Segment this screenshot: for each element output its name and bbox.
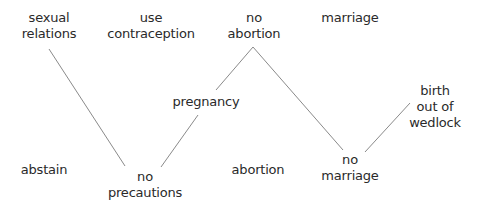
- node-abortion: abortion: [232, 162, 285, 178]
- node-text-line: no: [108, 169, 182, 185]
- node-text-line: birth: [409, 83, 461, 99]
- node-no-abortion: no abortion: [228, 10, 281, 42]
- node-sexual-relations: sexual relations: [22, 10, 77, 42]
- node-birth-out-of-wedlock: birth out of wedlock: [409, 83, 461, 131]
- node-text-line: precautions: [108, 185, 182, 201]
- node-text-line: abortion: [232, 162, 285, 178]
- node-pregnancy: pregnancy: [172, 94, 239, 110]
- edge-no-marriage-to-birth-out-of-wedlock: [365, 103, 410, 152]
- edge-sexual-relations-to-no-precautions: [49, 49, 125, 166]
- node-text-line: no: [321, 152, 378, 168]
- node-text-line: marriage: [321, 168, 378, 184]
- node-text-line: use: [107, 10, 194, 26]
- node-no-precautions: no precautions: [108, 169, 182, 201]
- node-text-line: marriage: [321, 10, 378, 26]
- edge-no-precautions-to-pregnancy: [161, 115, 198, 167]
- node-text-line: contraception: [107, 26, 194, 42]
- node-text-line: wedlock: [409, 115, 461, 131]
- edge-pregnancy-to-no-abortion: [216, 47, 253, 90]
- node-text-line: abstain: [21, 162, 68, 178]
- node-text-line: abortion: [228, 26, 281, 42]
- node-text-line: no: [228, 10, 281, 26]
- node-text-line: out of: [409, 99, 461, 115]
- node-marriage: marriage: [321, 10, 378, 26]
- node-no-marriage: no marriage: [321, 152, 378, 184]
- node-text-line: relations: [22, 26, 77, 42]
- node-abstain: abstain: [21, 162, 68, 178]
- node-text-line: sexual: [22, 10, 77, 26]
- edge-no-abortion-to-no-marriage: [253, 47, 343, 150]
- node-text-line: pregnancy: [172, 94, 239, 110]
- node-use-contraception: use contraception: [107, 10, 194, 42]
